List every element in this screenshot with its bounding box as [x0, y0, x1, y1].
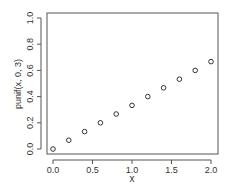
y-tick-label: 0.6 — [25, 64, 35, 77]
data-point — [82, 129, 87, 134]
y-tick-label: 0.4 — [25, 90, 35, 103]
plot-box — [47, 13, 218, 154]
y-tick-label: 0.2 — [25, 117, 35, 130]
y-tick-label: 0.0 — [25, 143, 35, 156]
data-point — [67, 138, 72, 143]
y-tick-label: 1.0 — [25, 12, 35, 25]
x-tick-label: 1.5 — [165, 165, 178, 175]
data-point — [161, 86, 166, 91]
scatter-chart: 0.00.51.01.52.0 0.00.20.40.60.81.0 x pun… — [0, 0, 230, 190]
x-tick-label: 0.5 — [86, 165, 99, 175]
data-point — [51, 147, 56, 152]
data-point — [193, 68, 198, 73]
data-point — [130, 103, 135, 108]
data-point — [209, 59, 214, 64]
y-axis: 0.00.20.40.60.81.0 — [25, 12, 41, 156]
data-point — [114, 112, 119, 117]
data-point — [146, 94, 151, 99]
x-axis-label: x — [130, 173, 135, 184]
y-axis-label: punif(x, 0, 3) — [13, 59, 23, 109]
data-point — [177, 77, 182, 82]
x-tick-label: 0.0 — [47, 165, 60, 175]
x-tick-label: 2.0 — [205, 165, 218, 175]
data-points — [51, 59, 214, 151]
y-tick-label: 0.8 — [25, 38, 35, 51]
data-point — [98, 121, 103, 126]
